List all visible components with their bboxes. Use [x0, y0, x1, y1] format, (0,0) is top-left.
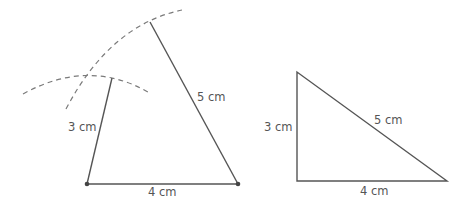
right-triangle [297, 72, 447, 181]
label-3cm-right-triangle: 3 cm [264, 120, 293, 134]
right-triangle-figure [297, 72, 447, 181]
compass-arc-small [23, 75, 148, 94]
compass-arc-large [66, 10, 182, 109]
vertex-point-right [236, 182, 241, 187]
label-5cm-construction: 5 cm [197, 90, 226, 104]
label-4cm-construction: 4 cm [148, 185, 177, 199]
diagram-canvas [0, 0, 460, 202]
vertex-point-left [85, 182, 90, 187]
label-4cm-right-triangle: 4 cm [360, 184, 389, 198]
label-5cm-right-triangle: 5 cm [374, 113, 403, 127]
label-3cm-construction: 3 cm [68, 120, 97, 134]
